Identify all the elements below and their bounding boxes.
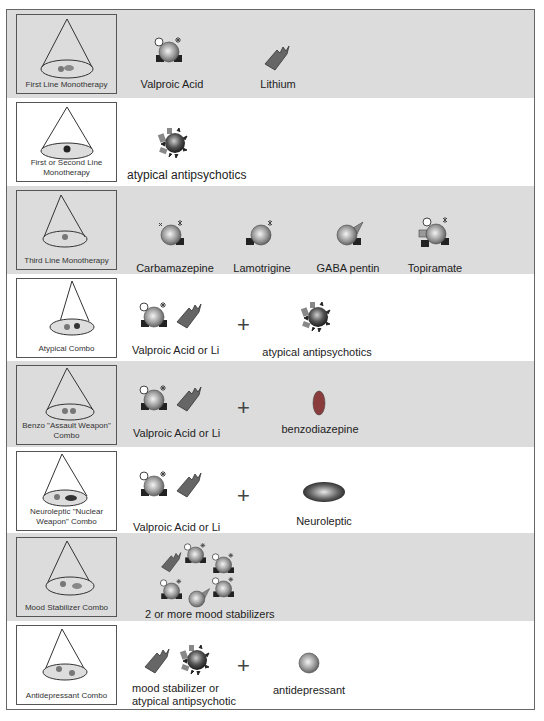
- valproic-acid-icon: [137, 302, 173, 334]
- lamotrigine-icon: [244, 220, 280, 252]
- lithium-icon: [175, 471, 205, 501]
- plus-sign: +: [237, 314, 250, 336]
- tile-label: Mood Stabilizer Combo: [17, 603, 116, 613]
- row-benzo-combo: Benzo "Assault Weapon" Combo Valproic Ac…: [7, 361, 534, 447]
- tile-label: First Line Monotherapy: [17, 80, 116, 90]
- tile-label: Antidepressant Combo: [17, 691, 116, 701]
- drug-label: benzodiazepine: [281, 423, 358, 435]
- cone-tile: First Line Monotherapy: [16, 14, 117, 94]
- lithium-icon: [175, 302, 205, 332]
- drug-label: Topiramate: [408, 262, 462, 274]
- row-first-or-second-line: First or Second Line Monotherapy atypica…: [7, 98, 534, 186]
- valproic-acid-icon: [137, 471, 173, 503]
- lithium-icon: [263, 44, 293, 74]
- benzodiazepine-icon: [312, 389, 326, 417]
- cone-tile: Neuroleptic "Nuclear Weapon" Combo: [16, 451, 117, 531]
- carbamazepine-icon: [154, 220, 190, 252]
- row-mood-stabilizer-combo: Mood Stabilizer Combo 2 or more mood sta…: [7, 533, 534, 621]
- atypical-antipsychotic-icon: [300, 302, 334, 334]
- drug-label: Lamotrigine: [233, 262, 290, 274]
- antidepressant-icon: [297, 651, 321, 675]
- mood-stabilizer-cluster-icon: [152, 539, 262, 611]
- row-third-line-monotherapy: Third Line Monotherapy Carbamazepine Lam…: [7, 186, 534, 274]
- lithium-icon: [175, 385, 205, 415]
- valproic-acid-icon: [152, 37, 188, 69]
- neuroleptic-icon: [302, 481, 346, 503]
- drug-label: Valproic Acid or Li: [133, 521, 220, 533]
- drug-label: mood stabilizer oratypical antipsychotic: [132, 682, 236, 708]
- tile-label: Benzo "Assault Weapon" Combo: [17, 421, 116, 441]
- cone-tile: Benzo "Assault Weapon" Combo: [16, 365, 117, 445]
- cone-tile: First or Second Line Monotherapy: [16, 102, 117, 182]
- cone-tile: Mood Stabilizer Combo: [16, 537, 117, 617]
- plus-sign: +: [237, 485, 250, 507]
- drug-label: Valproic Acid or Li: [132, 344, 219, 356]
- drug-label: Valproic Acid: [141, 78, 204, 90]
- cone-tile: Antidepressant Combo: [16, 625, 117, 705]
- topiramate-icon: [417, 216, 455, 252]
- cone-tile: Atypical Combo: [16, 278, 117, 358]
- mood-stabilizer-or-atypical-icon: [141, 643, 221, 679]
- drug-label: Valproic Acid or Li: [133, 427, 220, 439]
- valproic-acid-icon: [137, 385, 173, 417]
- drug-label: antidepressant: [273, 684, 345, 696]
- tile-label: First or Second Line Monotherapy: [17, 158, 116, 178]
- row-neuroleptic-combo: Neuroleptic "Nuclear Weapon" Combo Valpr…: [7, 447, 534, 533]
- row-atypical-combo: Atypical Combo Valproic Acid or Li + aty…: [7, 274, 534, 361]
- row-first-line-monotherapy: First Line Monotherapy Valproic Acid Lit…: [7, 10, 534, 98]
- drug-label: 2 or more mood stabilizers: [145, 608, 275, 620]
- tile-label: Third Line Monotherapy: [17, 256, 116, 266]
- cone-tile: Third Line Monotherapy: [16, 190, 117, 270]
- drug-label: GABA pentin: [317, 262, 380, 274]
- therapy-chart-frame: First Line Monotherapy Valproic Acid Lit…: [6, 9, 535, 710]
- drug-label: Neuroleptic: [296, 515, 352, 527]
- drug-label: Carbamazepine: [136, 262, 214, 274]
- drug-label: atypical antipsychotics: [262, 346, 371, 358]
- gabapentin-icon: [331, 220, 367, 252]
- drug-label: Lithium: [260, 78, 295, 90]
- row-antidepressant-combo: Antidepressant Combo mood stabilizer ora…: [7, 621, 534, 709]
- plus-sign: +: [237, 397, 250, 419]
- drug-label: atypical antipsychotics: [127, 168, 246, 182]
- tile-label: Atypical Combo: [17, 344, 116, 354]
- plus-sign: +: [237, 655, 250, 677]
- tile-label: Neuroleptic "Nuclear Weapon" Combo: [17, 507, 116, 527]
- atypical-antipsychotic-icon: [157, 128, 191, 160]
